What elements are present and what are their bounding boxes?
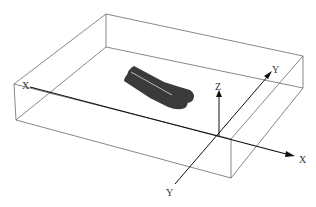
y-axis-arrow-icon: [264, 71, 272, 79]
specimen-object: [124, 66, 194, 109]
z-axis-label: Z: [215, 81, 221, 92]
y-axis-label-bottom: Y: [166, 187, 173, 198]
x-axis-arrow-icon: [285, 151, 295, 157]
y-axis-label-top: Y: [272, 64, 279, 75]
diagram-canvas: X X Y Y Z: [0, 0, 316, 207]
x-axis-label-left: X: [22, 80, 30, 91]
x-axis-label-right: X: [299, 154, 307, 165]
